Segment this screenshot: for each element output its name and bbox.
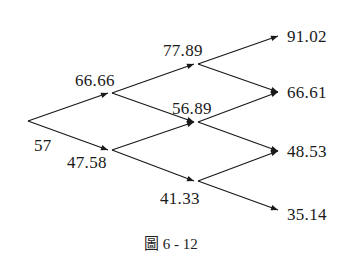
- edge-root-up: [28, 93, 108, 121]
- node-dd-label: 41.33: [160, 190, 200, 207]
- figure-caption: 圖 6 - 12: [144, 237, 198, 252]
- edge-down-ud: [112, 122, 194, 150]
- node-root-label: 57: [34, 137, 52, 154]
- edge-up-uu: [112, 64, 194, 93]
- node-ddd-label: 35.14: [287, 206, 327, 223]
- node-up1-label: 66.66: [75, 72, 115, 89]
- edge-dd-udd: [198, 151, 278, 181]
- node-uu-label: 77.89: [163, 42, 203, 59]
- edge-uu-uuu: [198, 36, 278, 64]
- node-down1-label: 47.58: [67, 154, 107, 171]
- node-ud-label: 56.89: [172, 100, 212, 117]
- edge-dd-ddd: [198, 181, 278, 210]
- node-uuu-label: 91.02: [287, 28, 327, 45]
- node-udd-label: 48.53: [287, 143, 327, 160]
- edge-uu-uud: [198, 64, 278, 92]
- edge-down-dd: [112, 150, 194, 181]
- edge-ud-udd: [198, 122, 278, 151]
- node-uud-label: 66.61: [287, 84, 327, 101]
